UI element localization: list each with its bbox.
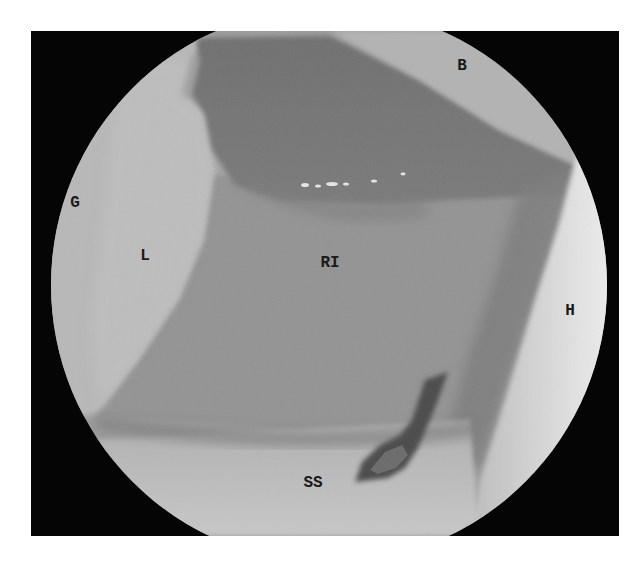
scope-field xyxy=(31,31,619,536)
label-rotator-interval: RI xyxy=(320,255,339,271)
label-subscapularis: SS xyxy=(303,475,322,491)
label-glenoid: G xyxy=(70,195,80,211)
label-biceps: B xyxy=(457,58,467,74)
label-labrum: L xyxy=(140,248,150,264)
label-humeral-head: H xyxy=(565,303,575,319)
